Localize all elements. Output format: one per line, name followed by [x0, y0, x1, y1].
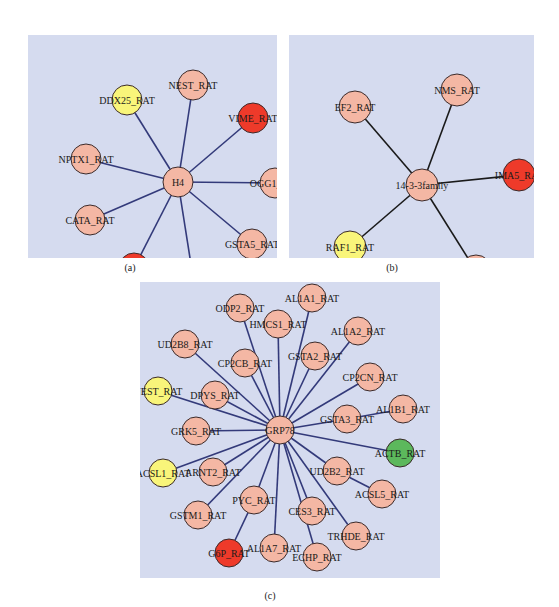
- node-label: 14-3-3family: [396, 180, 449, 191]
- node-label: VIME_RAT: [228, 113, 277, 124]
- network-node: DDX25_RAT: [99, 85, 155, 115]
- network-node: IMA5_RAT: [495, 159, 534, 191]
- node-label: IMA5_RAT: [495, 170, 534, 181]
- network-node: PYC_RAT: [232, 486, 275, 514]
- network-panel-c: ODP2_RATAL1A1_RATHMCS1_RATAL1A2_RATUD2B8…: [140, 282, 440, 578]
- node-label: ACSL5_RAT: [355, 489, 409, 500]
- network-node: EF2_RAT: [335, 91, 376, 123]
- node-label: GSTA2_RAT: [288, 351, 342, 362]
- node-label: AL1B1_RAT: [376, 404, 430, 415]
- node-label: GSTA5_RAT: [225, 239, 277, 250]
- node-label: CES3_RAT: [288, 506, 335, 517]
- node-label: NMS_RAT: [434, 85, 480, 96]
- node-label: CATA_RAT: [65, 215, 114, 226]
- network-node: AL1A1_RAT: [285, 284, 339, 312]
- node-label: G6P_RAT: [208, 548, 250, 559]
- network-node: GSTM1_RAT: [170, 501, 227, 529]
- node-label: GRP78: [265, 425, 294, 436]
- network-panel-a: NEST_RATDDX25_RATVIME_RATNPTX1_RATOGG1_R…: [28, 35, 277, 258]
- panel-caption-b: (b): [372, 262, 412, 273]
- network-node: AL1A2_RAT: [331, 317, 385, 345]
- node-label: TRHDE_RAT: [327, 531, 384, 542]
- node-label: AL1A2_RAT: [331, 326, 385, 337]
- node-label: PYC_RAT: [232, 495, 275, 506]
- network-node: CATA_RAT: [65, 205, 114, 235]
- hub-node: 14-3-3family: [396, 169, 449, 201]
- network-node: HMCS1_RAT: [249, 310, 306, 338]
- network-panel-b: NMS_RATEF2_RATIMA5_RATRAF1_RATCARD9_RAT1…: [289, 35, 534, 258]
- network-node: NMS_RAT: [434, 74, 480, 106]
- node-label: DDX25_RAT: [99, 95, 155, 106]
- node-label: OGG1_RAT: [250, 178, 277, 189]
- network-node: GRK5_RAT: [171, 417, 221, 445]
- node-label: EF2_RAT: [335, 102, 376, 113]
- node-label: DPYS_RAT: [190, 390, 239, 401]
- node-label: ARNT2_RAT: [185, 467, 241, 478]
- network-node: CP2CN_RAT: [342, 363, 397, 391]
- node-label: HMCS1_RAT: [249, 319, 306, 330]
- edge: [280, 430, 317, 557]
- network-node: CARD9_RAT: [448, 255, 505, 258]
- network-node: NPTX1_RAT: [58, 144, 113, 174]
- network-node: TRHDE_RAT: [327, 522, 384, 550]
- node-label: RAF1_RAT: [326, 242, 374, 253]
- node-label: GRK5_RAT: [171, 426, 221, 437]
- network-node: AL1B1_RAT: [376, 395, 430, 423]
- panel-caption-c: (c): [250, 590, 290, 601]
- node-label: NEST_RAT: [169, 80, 218, 91]
- node-label: UD2B2_RAT: [309, 466, 364, 477]
- network-node: RAF1_RAT: [326, 231, 374, 258]
- network-node: IMA5_RAT: [110, 253, 158, 258]
- node-label: ECHP_RAT: [292, 552, 341, 563]
- network-node: GSTA3_RAT: [320, 405, 374, 433]
- network-node: GSTA5_RAT: [225, 229, 277, 258]
- network-node: UD2B8_RAT: [157, 330, 212, 358]
- node-label: H4: [172, 177, 184, 188]
- node-label: NPTX1_RAT: [58, 154, 113, 165]
- network-node: ACTB_RAT: [375, 439, 426, 467]
- edge: [274, 430, 280, 548]
- node-label: AL1A1_RAT: [285, 293, 339, 304]
- network-node: G6P_RAT: [208, 539, 250, 567]
- edge: [278, 324, 280, 430]
- node-label: GSTM1_RAT: [170, 510, 227, 521]
- hub-node: H4: [163, 167, 193, 197]
- node-label: NEST_RAT: [140, 386, 182, 397]
- network-node: ACSL1_RAT: [140, 459, 190, 487]
- node-label: CP2CB_RAT: [218, 358, 272, 369]
- node-label: UD2B8_RAT: [157, 339, 212, 350]
- network-node: NEST_RAT: [169, 70, 218, 100]
- network-node: CES3_RAT: [288, 497, 335, 525]
- node-label: ACSL1_RAT: [140, 468, 190, 479]
- node-label: CP2CN_RAT: [342, 372, 397, 383]
- node-label: GSTA3_RAT: [320, 414, 374, 425]
- hub-node: GRP78: [265, 416, 294, 444]
- network-node: VIME_RAT: [228, 103, 277, 133]
- network-node: CP2CB_RAT: [218, 349, 272, 377]
- network-node: NEST_RAT: [140, 377, 182, 405]
- node-label: ACTB_RAT: [375, 448, 426, 459]
- node-label: ODP2_RAT: [216, 303, 265, 314]
- panel-caption-a: (a): [110, 262, 150, 273]
- network-node: OGG1_RAT: [250, 168, 277, 198]
